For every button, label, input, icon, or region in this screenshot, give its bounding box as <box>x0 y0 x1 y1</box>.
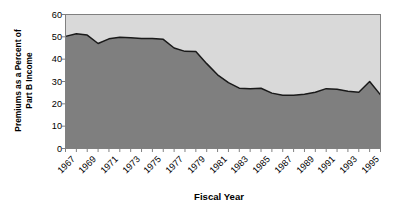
x-tick-label: 1977 <box>164 154 186 176</box>
x-axis-title: Fiscal Year <box>0 191 402 202</box>
x-tick-label: 1979 <box>185 154 207 176</box>
x-tick-label: 1971 <box>98 154 120 176</box>
x-tick-label: 1985 <box>251 154 273 176</box>
x-tick-label: 1969 <box>77 154 99 176</box>
x-tick-label: 1981 <box>207 154 229 176</box>
x-tick-label: 1989 <box>294 154 316 176</box>
x-tick-label: 1987 <box>272 154 294 176</box>
x-tick-label: 1983 <box>229 154 251 176</box>
x-axis-tick-labels: 1967196919711973197519771979198119831985… <box>0 0 402 211</box>
x-tick-label: 1991 <box>316 154 338 176</box>
x-tick-label: 1993 <box>337 154 359 176</box>
chart-figure: Premiums as a Percent of Part B Income 0… <box>0 0 402 211</box>
x-axis-title-label: Fiscal Year <box>158 191 244 202</box>
x-tick-label: 1975 <box>142 154 164 176</box>
x-tick-label: 1995 <box>359 154 381 176</box>
x-tick-label: 1967 <box>55 154 77 176</box>
x-tick-label: 1973 <box>120 154 142 176</box>
